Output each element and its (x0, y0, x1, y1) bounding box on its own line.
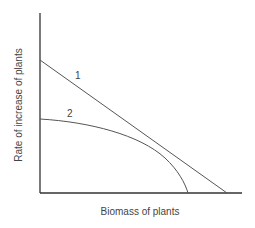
line-1-label: 1 (75, 70, 81, 81)
line-1 (40, 60, 227, 193)
chart-plot (0, 0, 255, 228)
curve-2 (40, 119, 188, 193)
x-axis-label: Biomass of plants (101, 206, 180, 217)
line-2-label: 2 (67, 108, 73, 119)
y-axis-label: Rate of increase of plants (13, 48, 24, 161)
